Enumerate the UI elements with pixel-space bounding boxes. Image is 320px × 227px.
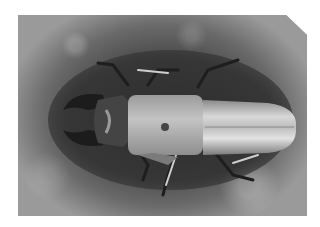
stag-beetle-photo [18,15,307,216]
beetle-illustration [18,15,307,216]
head [94,95,130,147]
